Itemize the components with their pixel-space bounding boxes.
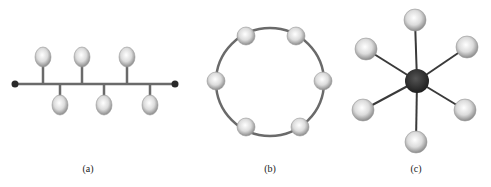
node-icon <box>405 131 427 153</box>
node-icon <box>291 118 309 136</box>
node-icon <box>96 95 112 115</box>
node-icon <box>74 47 90 67</box>
node-icon <box>52 95 68 115</box>
node-icon <box>142 95 158 115</box>
terminator-icon <box>172 81 179 88</box>
star-topology <box>352 9 478 153</box>
bus-topology <box>12 47 179 115</box>
node-icon <box>355 38 377 60</box>
ring-topology <box>207 27 332 136</box>
node-icon <box>404 9 426 31</box>
node-icon <box>454 99 476 121</box>
caption-a: (a) <box>82 163 93 174</box>
terminator-icon <box>12 81 19 88</box>
hub-icon <box>405 69 429 93</box>
node-icon <box>237 27 255 45</box>
caption-c: (c) <box>410 163 421 174</box>
ring-line <box>216 28 324 136</box>
node-icon <box>237 118 255 136</box>
node-icon <box>287 27 305 45</box>
node-icon <box>456 36 478 58</box>
node-icon <box>207 72 225 90</box>
node-icon <box>352 99 374 121</box>
node-icon <box>119 47 135 67</box>
caption-b: (b) <box>264 163 276 174</box>
node-icon <box>314 72 332 90</box>
node-icon <box>35 47 51 67</box>
network-topology-diagram <box>0 0 491 187</box>
